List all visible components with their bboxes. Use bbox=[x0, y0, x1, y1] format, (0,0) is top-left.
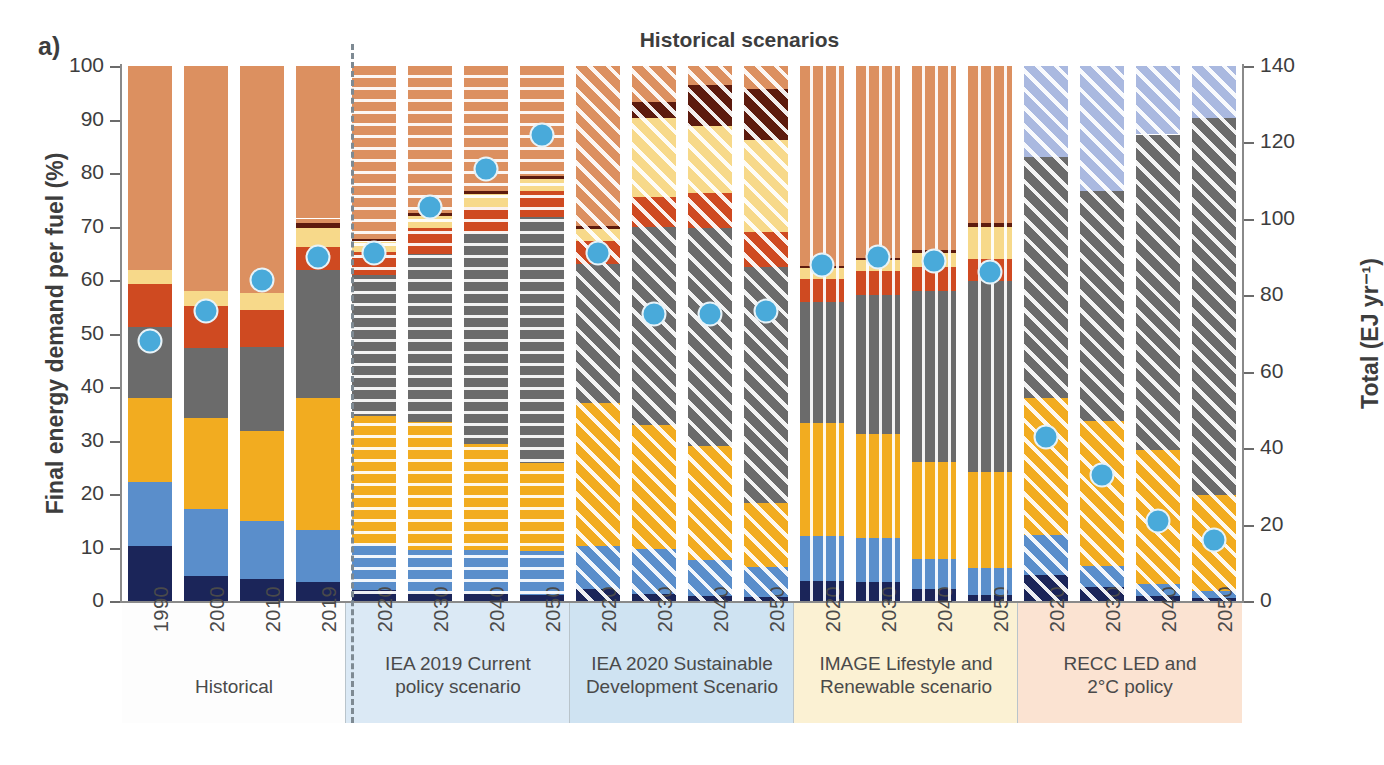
x-tick-label: 2020 bbox=[374, 586, 397, 633]
bar-slot[interactable] bbox=[346, 66, 402, 601]
tick-mark bbox=[1244, 601, 1254, 603]
bar-slot[interactable] bbox=[682, 66, 738, 601]
bar-segment bbox=[408, 228, 452, 255]
total-energy-marker bbox=[641, 302, 666, 327]
bar-slot[interactable] bbox=[402, 66, 458, 601]
x-tick-label: 2030 bbox=[430, 586, 453, 633]
bar-segment bbox=[632, 81, 676, 102]
bar-segment bbox=[576, 264, 620, 403]
bar-group-1 bbox=[122, 66, 346, 601]
tick-mark bbox=[1244, 142, 1254, 144]
y-tick-label-right: 20 bbox=[1260, 512, 1320, 536]
y-tick-label-right: 0 bbox=[1260, 588, 1320, 612]
bar-segment bbox=[1192, 118, 1236, 495]
tick-mark bbox=[1244, 372, 1254, 374]
stacked-bar[interactable] bbox=[800, 66, 844, 601]
bar-segment bbox=[128, 482, 172, 547]
tick-mark bbox=[110, 601, 120, 603]
bar-slot[interactable] bbox=[1074, 66, 1130, 601]
stacked-bar[interactable] bbox=[1024, 66, 1068, 601]
stacked-bar[interactable] bbox=[688, 66, 732, 601]
bar-slot[interactable] bbox=[794, 66, 850, 601]
bar-segment-top bbox=[744, 66, 788, 73]
bar-segment bbox=[968, 227, 1012, 259]
bar-slot[interactable] bbox=[234, 66, 290, 601]
bar-segment-top bbox=[408, 66, 452, 210]
bar-segment bbox=[184, 509, 228, 576]
bar-segment bbox=[968, 223, 1012, 227]
stacked-bar[interactable] bbox=[968, 66, 1012, 601]
total-energy-marker bbox=[1201, 527, 1226, 552]
bar-segment bbox=[464, 191, 508, 195]
x-tick-label: 2019 bbox=[318, 586, 341, 633]
bar-segment bbox=[968, 221, 1012, 224]
bar-slot[interactable] bbox=[738, 66, 794, 601]
x-tick-label: 2050 bbox=[1214, 586, 1237, 633]
stacked-bar[interactable] bbox=[464, 66, 508, 601]
stacked-bar[interactable] bbox=[1192, 66, 1236, 601]
bar-segment bbox=[800, 423, 844, 536]
bar-segment bbox=[520, 173, 564, 176]
stacked-bar[interactable] bbox=[1136, 66, 1180, 601]
bar-slot[interactable] bbox=[906, 66, 962, 601]
bar-slot[interactable] bbox=[1130, 66, 1186, 601]
stacked-bar[interactable] bbox=[128, 66, 172, 601]
tick-mark bbox=[110, 548, 120, 550]
bar-segment bbox=[184, 290, 228, 291]
tick-mark bbox=[1244, 66, 1254, 68]
stacked-bar[interactable] bbox=[408, 66, 452, 601]
bar-slot[interactable] bbox=[850, 66, 906, 601]
tick-mark bbox=[110, 334, 120, 336]
stacked-bar[interactable] bbox=[912, 66, 956, 601]
x-tick-label: 2050 bbox=[990, 586, 1013, 633]
bar-group-5 bbox=[1018, 66, 1242, 601]
stacked-bar[interactable] bbox=[576, 66, 620, 601]
bar-segment bbox=[240, 521, 284, 578]
y-tick-label-left: 90 bbox=[52, 107, 104, 131]
bar-slot[interactable] bbox=[514, 66, 570, 601]
bar-segment bbox=[464, 188, 508, 191]
stacked-bar[interactable] bbox=[856, 66, 900, 601]
bar-segment bbox=[352, 416, 396, 544]
bar-segment bbox=[520, 176, 564, 180]
stacked-bar[interactable] bbox=[744, 66, 788, 601]
stacked-bar[interactable] bbox=[1080, 66, 1124, 601]
bar-segment bbox=[688, 193, 732, 228]
bar-segment bbox=[240, 310, 284, 347]
bar-segment-top bbox=[688, 66, 732, 72]
bar-slot[interactable] bbox=[290, 66, 346, 601]
stacked-bar[interactable] bbox=[520, 66, 564, 601]
bar-segment bbox=[1136, 66, 1180, 134]
bar-slot[interactable] bbox=[458, 66, 514, 601]
x-tick-label: 2030 bbox=[878, 586, 901, 633]
bar-segment bbox=[744, 232, 788, 267]
bar-segment bbox=[240, 431, 284, 521]
bar-segment bbox=[128, 284, 172, 327]
bar-segment-top bbox=[576, 66, 620, 223]
bar-slot[interactable] bbox=[1018, 66, 1074, 601]
bar-segment bbox=[520, 217, 564, 463]
stacked-bar[interactable] bbox=[240, 66, 284, 601]
bar-segment bbox=[688, 126, 732, 193]
stacked-bar[interactable] bbox=[184, 66, 228, 601]
stacked-bar[interactable] bbox=[632, 66, 676, 601]
bar-slot[interactable] bbox=[962, 66, 1018, 601]
stacked-bar[interactable] bbox=[296, 66, 340, 601]
bar-slot[interactable] bbox=[122, 66, 178, 601]
y-tick-label-right: 60 bbox=[1260, 359, 1320, 383]
group-name-label: RECC LED and2°C policy bbox=[1018, 652, 1242, 700]
total-energy-marker bbox=[193, 298, 218, 323]
y-tick-label-right: 40 bbox=[1260, 435, 1320, 459]
tick-mark bbox=[110, 173, 120, 175]
total-energy-marker bbox=[529, 122, 554, 147]
bar-slot[interactable] bbox=[178, 66, 234, 601]
bar-slot[interactable] bbox=[570, 66, 626, 601]
x-tick-label: 2000 bbox=[206, 586, 229, 633]
bar-slot[interactable] bbox=[626, 66, 682, 601]
bar-segment bbox=[1136, 135, 1180, 451]
stacked-bar[interactable] bbox=[352, 66, 396, 601]
plot-area: 0102030405060708090100 02040608010012014… bbox=[122, 66, 1242, 601]
bar-segment bbox=[968, 281, 1012, 473]
bar-segment bbox=[912, 291, 956, 462]
bar-slot[interactable] bbox=[1186, 66, 1242, 601]
